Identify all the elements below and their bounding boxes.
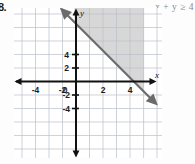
y-tick-label-2: 2: [64, 63, 69, 73]
problem-number: 8.: [0, 1, 6, 13]
x-tick-label-neg4: -4: [32, 85, 40, 95]
y-axis-letter: y: [79, 8, 84, 18]
y-tick-label-neg2: -2: [62, 90, 70, 100]
coordinate-graph: y x 0 -4 -2 2 4 4 2 -2 -4: [14, 8, 162, 158]
graph-svg: y x 0 -4 -2 2 4 4 2 -2 -4: [14, 8, 162, 158]
x-tick-label-4: 4: [128, 85, 133, 95]
x-tick-label-2: 2: [101, 85, 106, 95]
x-axis-letter: x: [154, 70, 159, 80]
y-tick-label-neg4: -4: [62, 104, 70, 114]
y-tick-label-4: 4: [64, 50, 69, 60]
